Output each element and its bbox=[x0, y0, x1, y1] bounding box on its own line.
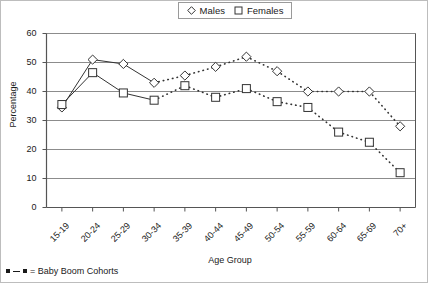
chart-footnote: = Baby Boom Cohorts bbox=[6, 266, 118, 276]
y-tick-label: 20 bbox=[13, 145, 37, 154]
footnote-dot-right-icon bbox=[23, 269, 27, 273]
footnote-label: = Baby Boom Cohorts bbox=[30, 266, 118, 276]
y-tick-label: 10 bbox=[13, 174, 37, 183]
y-tick-label: 0 bbox=[13, 203, 37, 212]
chart-container: Males Females Percentage Age Group 01020… bbox=[0, 0, 429, 284]
y-tick-label: 50 bbox=[13, 58, 37, 67]
y-tick-label: 60 bbox=[13, 29, 37, 38]
footnote-dash-icon bbox=[13, 271, 20, 272]
y-tick-label: 40 bbox=[13, 87, 37, 96]
y-tick-label: 30 bbox=[13, 116, 37, 125]
footnote-dot-left-icon bbox=[6, 269, 10, 273]
chart-plot-area bbox=[0, 0, 429, 284]
